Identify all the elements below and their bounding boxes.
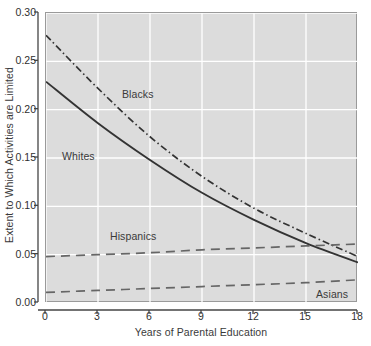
y-axis-tick-labels: 0.30 0.25 0.20 0.15 0.10 0.05 0.00 bbox=[4, 0, 36, 346]
series-label-whites: Whites bbox=[62, 150, 95, 162]
series-label-hispanics: Hispanics bbox=[110, 230, 156, 242]
chart-container: Extent to Which Activities are Limited 0… bbox=[0, 0, 371, 346]
series-label-asians: Asians bbox=[316, 288, 348, 300]
x-axis-title: Years of Parental Education bbox=[45, 326, 357, 338]
y-tick-label: 0.10 bbox=[6, 199, 36, 211]
x-tick-label: 3 bbox=[82, 310, 112, 322]
y-tick-label: 0.15 bbox=[6, 151, 36, 163]
y-tick-label: 0.25 bbox=[6, 54, 36, 66]
y-tick-label: 0.30 bbox=[6, 6, 36, 18]
y-tick-label: 0.05 bbox=[6, 248, 36, 260]
y-tick-label: 0.00 bbox=[6, 296, 36, 308]
x-tick-label: 6 bbox=[134, 310, 164, 322]
series-label-blacks: Blacks bbox=[122, 88, 154, 100]
y-tick-label: 0.20 bbox=[6, 103, 36, 115]
x-tick-label: 18 bbox=[342, 310, 371, 322]
x-tick-label: 12 bbox=[238, 310, 268, 322]
x-tick-label: 0 bbox=[30, 310, 60, 322]
x-tick-label: 15 bbox=[290, 310, 320, 322]
x-tick-label: 9 bbox=[186, 310, 216, 322]
